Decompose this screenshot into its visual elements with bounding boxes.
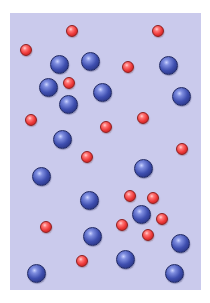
red-particle bbox=[147, 192, 159, 204]
red-particle bbox=[142, 229, 154, 241]
red-particle bbox=[176, 143, 188, 155]
blue-particle bbox=[132, 205, 151, 224]
blue-particle bbox=[83, 227, 102, 246]
red-particle bbox=[100, 121, 112, 133]
blue-particle bbox=[80, 191, 99, 210]
red-particle bbox=[40, 221, 52, 233]
blue-particle bbox=[116, 250, 135, 269]
blue-particle bbox=[59, 95, 78, 114]
blue-particle bbox=[50, 55, 69, 74]
blue-particle bbox=[32, 167, 51, 186]
red-particle bbox=[25, 114, 37, 126]
blue-particle bbox=[171, 234, 190, 253]
red-particle bbox=[63, 77, 75, 89]
blue-particle bbox=[53, 130, 72, 149]
blue-particle bbox=[172, 87, 191, 106]
red-particle bbox=[20, 44, 32, 56]
red-particle bbox=[152, 25, 164, 37]
red-particle bbox=[156, 213, 168, 225]
red-particle bbox=[137, 112, 149, 124]
blue-particle bbox=[81, 52, 100, 71]
red-particle bbox=[81, 151, 93, 163]
red-particle bbox=[122, 61, 134, 73]
red-particle bbox=[124, 190, 136, 202]
blue-particle bbox=[93, 83, 112, 102]
blue-particle bbox=[165, 264, 184, 283]
red-particle bbox=[76, 255, 88, 267]
red-particle bbox=[66, 25, 78, 37]
blue-particle bbox=[27, 264, 46, 283]
red-particle bbox=[116, 219, 128, 231]
blue-particle bbox=[159, 56, 178, 75]
blue-particle bbox=[134, 159, 153, 178]
blue-particle bbox=[39, 78, 58, 97]
